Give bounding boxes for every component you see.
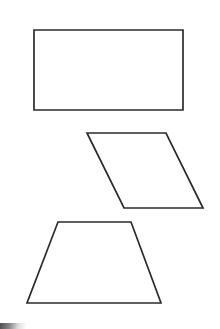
- quadrilaterals-drawing: [0, 0, 220, 329]
- shape-trapezoid: [27, 222, 161, 303]
- shape-rectangle: [34, 30, 183, 110]
- figure-canvas: [0, 0, 220, 329]
- shape-parallelogram: [87, 133, 203, 208]
